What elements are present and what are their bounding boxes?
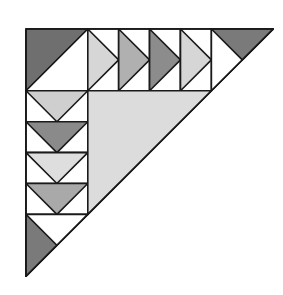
quilt-diagram xyxy=(0,0,283,295)
